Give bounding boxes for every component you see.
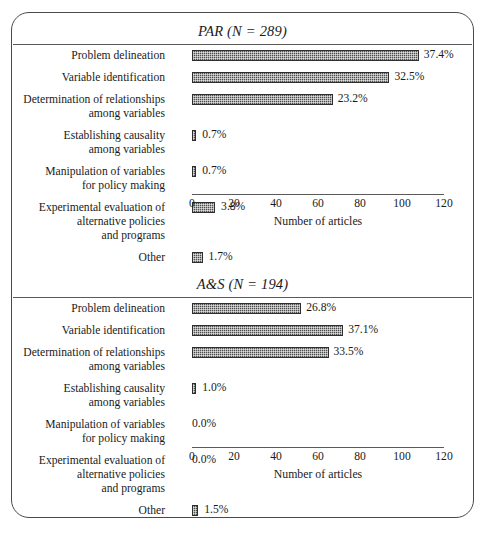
bar <box>192 325 343 336</box>
bar <box>192 303 301 314</box>
panel-as-rows: Problem delineation 26.8% Variable ident… <box>12 302 473 526</box>
bar-value-label: 26.8% <box>306 301 336 314</box>
panel-par: PAR (N = 289) Problem delineation 37.4% … <box>12 13 473 266</box>
bar-value-label: 0.0% <box>192 417 216 430</box>
bar-value-label: 1.7% <box>209 250 233 263</box>
category-label: Establishing causality among variables <box>0 129 165 157</box>
bar-track: 26.8% <box>192 303 469 315</box>
category-label: Other <box>0 504 165 518</box>
category-label: Experimental evaluation of alternative p… <box>0 201 165 244</box>
category-label: Determination of relationships among var… <box>0 346 165 374</box>
table-row: Variable identification 32.5% <box>12 71 473 93</box>
x-tick: 120 <box>435 450 452 463</box>
bar <box>192 50 419 61</box>
table-row: Establishing causality among variables 0… <box>12 129 473 165</box>
bar-value-label: 0.7% <box>202 164 226 177</box>
panel-as-title: A&S (N = 194) <box>12 266 473 297</box>
table-row: Variable identification 37.1% <box>12 324 473 346</box>
bar-track: 0.7% <box>192 130 469 142</box>
table-row: Establishing causality among variables 1… <box>12 382 473 418</box>
category-label: Experimental evaluation of alternative p… <box>0 454 165 497</box>
bar-value-label: 32.5% <box>394 70 424 83</box>
bar-value-label: 37.4% <box>424 48 454 61</box>
category-label: Variable identification <box>0 71 165 85</box>
panel-as: A&S (N = 194) Problem delineation 26.8% … <box>12 266 473 519</box>
bar <box>192 252 203 263</box>
table-row: Determination of relationships among var… <box>12 346 473 382</box>
category-label: Manipulation of variables for policy mak… <box>0 165 165 193</box>
x-tick: 60 <box>312 450 324 463</box>
panel-par-plot: Problem delineation 37.4% Variable ident… <box>12 45 473 245</box>
bar-track: 0.0% <box>192 419 469 431</box>
table-row: Other 1.5% <box>12 504 473 526</box>
x-tick: 40 <box>270 197 282 210</box>
x-tick: 100 <box>393 197 410 210</box>
x-axis-ticks: 0 20 40 60 80 100 120 <box>192 448 444 464</box>
panel-par-title: PAR (N = 289) <box>12 13 473 44</box>
panel-par-title-text: PAR (N = 289) <box>198 23 287 39</box>
x-axis-ticks: 0 20 40 60 80 100 120 <box>192 195 444 211</box>
x-tick: 20 <box>228 450 240 463</box>
bar-track: 1.7% <box>192 252 469 264</box>
table-row: Problem delineation 26.8% <box>12 302 473 324</box>
x-tick: 40 <box>270 450 282 463</box>
bar-value-label: 33.5% <box>334 345 364 358</box>
category-label: Problem delineation <box>0 302 165 316</box>
x-tick: 80 <box>354 450 366 463</box>
bar-track: 1.0% <box>192 383 469 395</box>
panel-as-plot: Problem delineation 26.8% Variable ident… <box>12 298 473 498</box>
bar <box>192 166 196 177</box>
x-tick: 100 <box>393 450 410 463</box>
bar-track: 37.4% <box>192 50 469 62</box>
x-tick: 0 <box>189 197 195 210</box>
panel-as-title-text: A&S (N = 194) <box>197 276 289 292</box>
x-tick: 120 <box>435 197 452 210</box>
x-tick: 80 <box>354 197 366 210</box>
category-label: Manipulation of variables for policy mak… <box>0 418 165 446</box>
bar-value-label: 1.5% <box>204 503 228 516</box>
x-tick: 20 <box>228 197 240 210</box>
bar-track: 0.7% <box>192 166 469 178</box>
table-row: Problem delineation 37.4% <box>12 49 473 71</box>
bar-track: 23.2% <box>192 94 469 106</box>
bar-value-label: 37.1% <box>348 323 378 336</box>
figure-frame: PAR (N = 289) Problem delineation 37.4% … <box>11 12 474 518</box>
category-label: Determination of relationships among var… <box>0 93 165 121</box>
bar-track: 37.1% <box>192 325 469 337</box>
bar <box>192 72 389 83</box>
bar-track: 32.5% <box>192 72 469 84</box>
x-axis-title: Number of articles <box>192 467 444 482</box>
bar-track: 1.5% <box>192 505 469 517</box>
bar <box>192 130 196 141</box>
x-tick: 0 <box>189 450 195 463</box>
category-label: Other <box>0 251 165 265</box>
bar-track: 33.5% <box>192 347 469 359</box>
bar <box>192 94 333 105</box>
category-label: Variable identification <box>0 324 165 338</box>
category-label: Problem delineation <box>0 49 165 63</box>
x-tick: 60 <box>312 197 324 210</box>
table-row: Determination of relationships among var… <box>12 93 473 129</box>
bar-value-label: 23.2% <box>338 92 368 105</box>
bar-value-label: 1.0% <box>202 381 226 394</box>
x-axis: 0 20 40 60 80 100 120 <box>192 447 444 464</box>
bar-value-label: 0.7% <box>202 128 226 141</box>
bar <box>192 383 196 394</box>
panel-par-rows: Problem delineation 37.4% Variable ident… <box>12 49 473 273</box>
x-axis: 0 20 40 60 80 100 120 <box>192 194 444 211</box>
bar <box>192 505 198 516</box>
bar <box>192 347 329 358</box>
category-label: Establishing causality among variables <box>0 382 165 410</box>
x-axis-title: Number of articles <box>192 214 444 229</box>
